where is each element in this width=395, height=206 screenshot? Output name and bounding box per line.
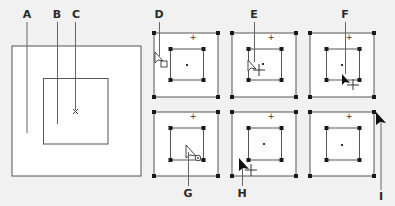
label-e: E (250, 9, 258, 20)
svg-text:+: + (190, 112, 197, 121)
frame-square-icon (161, 61, 167, 67)
label-i: I (379, 191, 383, 202)
panel-e: + (230, 22, 298, 99)
panel-g: + (152, 110, 220, 186)
label-c: C (72, 9, 80, 20)
svg-text:+: + (346, 112, 353, 121)
label-f: F (341, 9, 349, 20)
panel-i: + (308, 110, 386, 190)
panel-d: + (152, 22, 220, 99)
label-b: B (53, 9, 61, 20)
diagram-canvas: + + + (0, 0, 395, 206)
label-a: A (23, 9, 32, 20)
main-frame-diagram (12, 22, 141, 176)
label-g: G (183, 188, 192, 199)
panel-h: + (230, 110, 298, 186)
svg-text:+: + (268, 33, 275, 42)
label-d: D (154, 9, 163, 20)
label-h: H (237, 188, 246, 199)
svg-text:+: + (268, 112, 275, 121)
panel-f: + (308, 22, 376, 99)
svg-text:+: + (346, 33, 353, 42)
svg-text:+: + (190, 33, 197, 42)
